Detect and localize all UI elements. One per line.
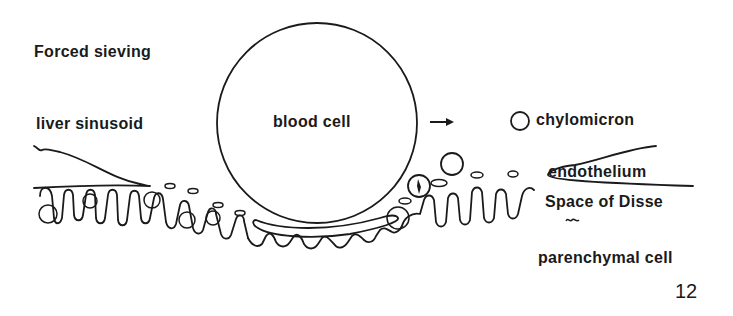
fenestra [471,172,483,178]
fenestra [165,184,175,189]
fenestra-pore [417,179,421,194]
label-blood-cell: blood cell [273,113,351,131]
figure-number: 12 [675,280,697,303]
squiggle-mark [566,219,579,221]
fenestra [188,189,198,194]
fenestra [235,211,245,216]
endothelium-compressed [253,215,398,237]
fenestra [399,198,411,204]
figure-title: Forced sieving [34,43,151,61]
fenestra [213,203,223,208]
label-space-of-disse: Space of Disse [545,193,663,211]
chylomicron-particle [441,153,463,175]
arrow-right-icon [430,118,454,126]
fenestra [431,180,447,187]
label-endothelium: endothelium [548,163,646,181]
label-chylomicron: chylomicron [536,111,634,129]
microvilli-left [40,188,248,239]
label-liver-sinusoid: liver sinusoid [36,115,143,133]
label-parenchymal-cell: parenchymal cell [538,249,673,267]
endothelium-left [34,146,150,188]
chylomicron-icon [511,112,529,130]
vesicle [179,212,195,228]
fenestra [508,171,518,177]
microvilli-right [402,188,534,227]
diagram-canvas: Forced sieving liver sinusoid blood cell… [0,0,733,316]
